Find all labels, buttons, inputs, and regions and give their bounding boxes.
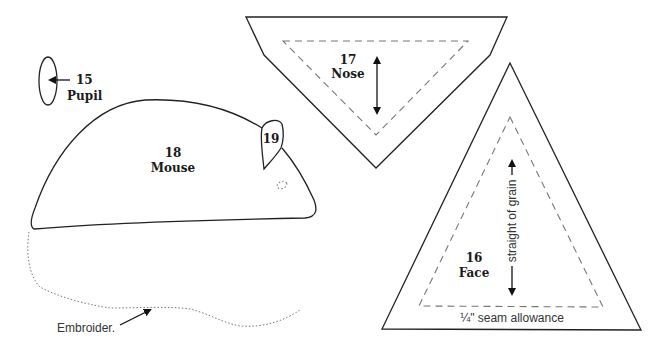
nose-name: Nose	[331, 67, 365, 81]
face-name: Face	[459, 266, 490, 280]
pupil-number: 15	[76, 73, 93, 87]
face-piece: 16 Face straight of grain ¼" seam allowa…	[382, 63, 641, 330]
nose-seam-line	[283, 41, 468, 135]
mouse-piece: 19 18 Mouse	[31, 100, 316, 229]
pupil-outline	[39, 57, 57, 105]
pattern-canvas: 15 Pupil 19 18 Mouse Embroider. 17 Nose …	[0, 0, 670, 347]
mouse-name: Mouse	[151, 161, 196, 175]
pupil-piece: 15 Pupil	[39, 57, 103, 105]
embroider-label: Embroider.	[57, 321, 115, 335]
nose-piece: 17 Nose	[246, 17, 507, 168]
eye-placement-mark	[276, 180, 288, 190]
ear-number: 19	[263, 132, 280, 146]
embroider-annotation: Embroider.	[28, 232, 300, 335]
pupil-name: Pupil	[67, 89, 103, 103]
seam-allowance-label: ¼" seam allowance	[460, 311, 564, 325]
grain-label: straight of grain	[505, 180, 519, 263]
embroider-stitch-line	[28, 232, 300, 326]
nose-number: 17	[340, 53, 357, 67]
face-number: 16	[466, 251, 483, 265]
mouse-number: 18	[165, 146, 182, 160]
embroider-arrow-icon	[120, 310, 150, 325]
